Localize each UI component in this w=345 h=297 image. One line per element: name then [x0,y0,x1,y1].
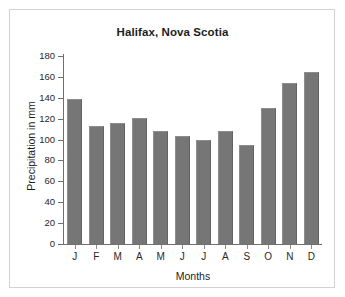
y-axis-tick-label: 0 [50,238,55,249]
bar [153,131,168,244]
y-axis-tick-label: 100 [39,134,55,145]
y-axis-tick-label: 40 [44,196,55,207]
y-axis-tick-label: 20 [44,217,55,228]
bar [67,99,82,244]
x-axis-tick-label: A [128,251,150,262]
x-axis-tick [139,245,140,249]
bar-series [64,56,322,244]
x-axis-tick-label: N [279,251,301,262]
bar [304,72,319,244]
x-axis-title: Months [64,270,322,282]
x-axis-tick [225,245,226,249]
x-axis-tick [311,245,312,249]
x-axis-tick [290,245,291,249]
y-axis-tick-label: 180 [39,50,55,61]
y-axis-tick-label: 80 [44,154,55,165]
bar [175,136,190,244]
x-axis-tick [204,245,205,249]
x-axis-tick [182,245,183,249]
y-axis-tick-label: 120 [39,113,55,124]
x-axis-tick-label: J [193,251,215,262]
x-axis-tick [118,245,119,249]
x-axis-tick-label: A [214,251,236,262]
bar [110,123,125,244]
bar [196,140,211,244]
x-axis-tick-label: J [64,251,86,262]
y-axis-tick-label: 60 [44,175,55,186]
x-axis-tick-label: J [171,251,193,262]
y-axis-tick [58,244,64,245]
x-axis-line [63,244,322,245]
chart-figure: Halifax, Nova Scotia 0204060801001201401… [0,0,345,297]
x-axis-tick-label: S [236,251,258,262]
x-axis-tick-label: D [300,251,322,262]
bar [132,118,147,244]
y-axis-tick-label: 140 [39,92,55,103]
x-axis-tick [247,245,248,249]
x-axis-tick-label: M [107,251,129,262]
y-axis-title: Precipitation in mm [25,51,37,241]
bar [282,83,297,244]
chart-title: Halifax, Nova Scotia [0,26,345,38]
x-axis-tick-label: M [150,251,172,262]
bar [239,145,254,244]
x-axis-tick [268,245,269,249]
x-axis-tick [96,245,97,249]
bar [218,131,233,244]
bar [89,126,104,244]
y-axis-tick-label: 160 [39,71,55,82]
x-axis-tick [161,245,162,249]
x-axis-tick [75,245,76,249]
bar [261,108,276,244]
x-axis-tick-label: O [257,251,279,262]
x-axis-tick-label: F [85,251,107,262]
